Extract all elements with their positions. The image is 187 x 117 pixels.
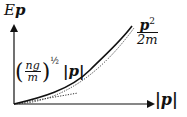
y-axis-label: Ep	[4, 3, 25, 18]
square-exponent: 2	[149, 16, 155, 26]
x-axis-label: |p|	[155, 92, 178, 108]
m-denominator: m	[27, 72, 37, 83]
energy-symbol: E	[4, 1, 15, 19]
momentum-abs-label: |p|	[63, 64, 84, 79]
momentum-subscript: p	[15, 1, 26, 19]
left-paren: (	[15, 61, 24, 83]
p-symbol: p	[140, 17, 150, 33]
two-m-denominator: 2m	[137, 33, 158, 46]
right-paren: )	[42, 61, 51, 83]
free-particle-label: p2 2m	[137, 17, 158, 46]
ng-over-m-fraction: ng m	[25, 60, 41, 83]
phonon-linear-label: ( ng m ) ½ |p|	[15, 60, 84, 83]
half-exponent: ½	[50, 57, 59, 66]
momentum-magnitude-label: |p|	[155, 90, 178, 109]
